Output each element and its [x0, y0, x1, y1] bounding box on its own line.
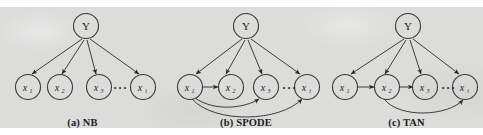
caption-nb: (a) NB	[0, 117, 165, 128]
ellipsis-tan: ···	[441, 82, 456, 94]
ellipsis-nb: ···	[113, 82, 128, 94]
bayesian-network-figure: Y x 1 x 2 x 3 x i	[0, 0, 483, 135]
ellipsis-spode: ···	[282, 82, 297, 94]
caption-tan: (c) TAN	[330, 117, 483, 128]
scanned-paper-background	[0, 7, 483, 128]
caption-spode: (b) SPODE	[160, 117, 332, 128]
